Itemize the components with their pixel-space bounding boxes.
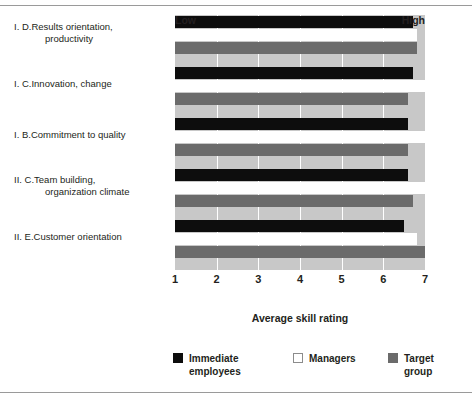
category-number-2: I. C. bbox=[14, 78, 31, 91]
category-text-5: Customer orientation bbox=[34, 231, 122, 242]
bar-target-group-group-1 bbox=[175, 42, 417, 54]
category-axis-labels: I. D. Results orientation,productivityI.… bbox=[0, 15, 170, 270]
category-label-2: I. C. Innovation, change bbox=[14, 78, 172, 91]
bar-target-group-group-3 bbox=[175, 144, 408, 156]
category-text-3: Commitment to quality bbox=[31, 129, 126, 140]
bar-chart: I. D. Results orientation,productivityI.… bbox=[0, 0, 472, 400]
bar-managers-group-5 bbox=[175, 233, 417, 245]
legend-swatch-gray bbox=[388, 353, 398, 363]
category-label-1: I. D. Results orientation,productivity bbox=[14, 21, 172, 46]
bar-immediate-employees-group-3 bbox=[175, 118, 408, 130]
bar-managers-group-4 bbox=[175, 182, 425, 194]
legend-label-1: Immediate employees bbox=[189, 352, 241, 378]
category-text-1: Results orientation, bbox=[31, 21, 112, 32]
category-number-4: II. C. bbox=[14, 174, 34, 187]
bar-managers-group-2 bbox=[175, 80, 425, 92]
bottom-divider bbox=[0, 392, 472, 393]
bar-managers-group-1 bbox=[175, 29, 417, 41]
bar-immediate-employees-group-2 bbox=[175, 67, 413, 79]
category-label-3: I. B. Commitment to quality bbox=[14, 129, 172, 142]
x-tick-2: 2 bbox=[202, 273, 232, 285]
bar-immediate-employees-group-1 bbox=[175, 16, 413, 28]
category-number-1: I. D. bbox=[14, 21, 31, 34]
category-text-cont-4: organization climate bbox=[14, 186, 172, 199]
x-tick-5: 5 bbox=[327, 273, 357, 285]
bar-target-group-group-2 bbox=[175, 93, 408, 105]
x-tick-3: 3 bbox=[243, 273, 273, 285]
x-axis-ticks: 1234567 bbox=[0, 273, 472, 289]
category-text-4: Team building, bbox=[34, 174, 95, 185]
bar-target-group-group-4 bbox=[175, 195, 413, 207]
x-tick-6: 6 bbox=[368, 273, 398, 285]
x-axis-high-label: High bbox=[402, 14, 425, 26]
figure-page: I. D. Results orientation,productivityI.… bbox=[0, 0, 472, 400]
bar-target-group-group-5 bbox=[175, 246, 425, 258]
category-text-cont-1: productivity bbox=[14, 33, 172, 46]
bar-immediate-employees-group-4 bbox=[175, 169, 408, 181]
legend-swatch-black bbox=[173, 353, 183, 363]
x-axis-title: Average skill rating bbox=[175, 312, 425, 324]
x-axis-low-label: Low bbox=[175, 14, 196, 26]
category-number-5: II. E. bbox=[14, 231, 34, 244]
legend-label-3: Target group bbox=[404, 352, 434, 378]
category-label-5: II. E. Customer orientation bbox=[14, 231, 172, 244]
legend-label-2: Managers bbox=[309, 352, 356, 365]
legend-swatch-white bbox=[293, 353, 303, 363]
x-tick-7: 7 bbox=[410, 273, 440, 285]
bar-immediate-employees-group-5 bbox=[175, 220, 404, 232]
bar-managers-group-3 bbox=[175, 131, 425, 143]
x-tick-4: 4 bbox=[285, 273, 315, 285]
chart-legend: Immediate employeesManagersTarget group bbox=[173, 352, 463, 386]
x-tick-1: 1 bbox=[160, 273, 190, 285]
plot-area bbox=[175, 15, 425, 270]
category-text-2: Innovation, change bbox=[31, 78, 111, 89]
category-label-4: II. C. Team building,organization climat… bbox=[14, 174, 172, 199]
category-number-3: I. B. bbox=[14, 129, 31, 142]
